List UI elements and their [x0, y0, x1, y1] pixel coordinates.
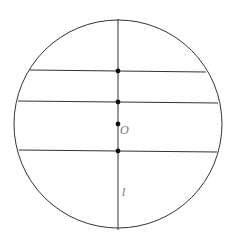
line-label-l: l: [122, 186, 126, 199]
point-2: [116, 100, 121, 105]
point-1: [116, 69, 121, 74]
point-4: [116, 149, 121, 154]
diagram-canvas: O l: [0, 0, 233, 244]
center-label-o: O: [120, 124, 129, 137]
